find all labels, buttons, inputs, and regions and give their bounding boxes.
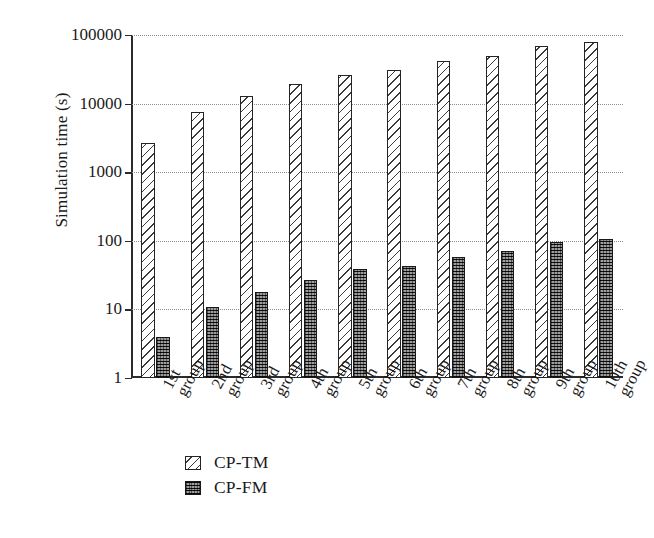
legend-item-cp-fm: CP-FM: [185, 475, 268, 500]
legend-swatch-cp-fm-icon: [185, 481, 201, 495]
bar-cp-tm-8: [486, 56, 500, 378]
bar-cp-tm-3: [240, 96, 254, 378]
bar-cp-fm-7: [452, 257, 466, 378]
chart-figure: Simulation time (s) 10000010000100010010…: [0, 0, 654, 538]
y-axis-tick-label: 1000: [88, 163, 122, 180]
bar-cp-tm-2: [191, 112, 205, 378]
legend-swatch-cp-tm-icon: [185, 456, 201, 470]
chart-legend: CP-TM CP-FM: [185, 450, 268, 500]
bar-group: [475, 35, 524, 378]
legend-label-cp-tm: CP-TM: [214, 452, 268, 473]
bar-cp-fm-5: [353, 269, 367, 378]
bar-group: [426, 35, 475, 378]
bar-cp-tm-6: [387, 70, 401, 378]
bar-group: [377, 35, 426, 378]
bar-cp-fm-10: [599, 239, 613, 378]
bar-cp-tm-7: [437, 61, 451, 378]
bar-group: [180, 35, 229, 378]
bar-groups: [131, 35, 623, 378]
plot-area: 100000100001000100101: [131, 35, 623, 378]
legend-item-cp-tm: CP-TM: [185, 450, 268, 475]
bar-group: [328, 35, 377, 378]
bar-group: [279, 35, 328, 378]
bar-cp-tm-4: [289, 84, 303, 378]
y-axis-tick-label: 100000: [71, 26, 122, 43]
bar-cp-fm-6: [402, 266, 416, 378]
bar-group: [525, 35, 574, 378]
y-axis-title: Simulation time (s): [52, 10, 72, 310]
bar-cp-tm-10: [584, 42, 598, 378]
y-axis-tick-label: 1: [114, 369, 123, 386]
bar-cp-tm-9: [535, 46, 549, 378]
bar-cp-tm-1: [141, 143, 155, 378]
y-axis-tick-label: 100: [97, 232, 123, 249]
y-axis-tick-label: 10: [105, 301, 122, 318]
bar-cp-fm-9: [550, 242, 564, 378]
y-axis-tick: [125, 378, 132, 379]
bar-cp-tm-5: [338, 75, 352, 378]
bar-cp-fm-8: [501, 251, 515, 378]
bar-group: [574, 35, 623, 378]
legend-label-cp-fm: CP-FM: [214, 477, 268, 498]
bar-group: [131, 35, 180, 378]
bar-group: [229, 35, 278, 378]
y-axis-tick-label: 10000: [80, 95, 123, 112]
